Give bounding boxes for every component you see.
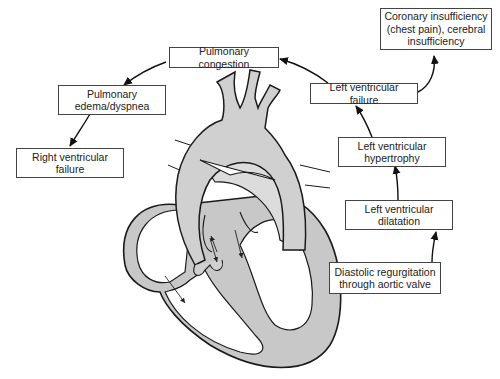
arrow-edema-to-rv-failure bbox=[70, 114, 90, 146]
heart-shape bbox=[124, 195, 341, 368]
arrow-hypertrophy-to-failure bbox=[356, 106, 372, 137]
node-pulmonary-congestion: Pulmonary congestion bbox=[169, 47, 279, 68]
node-right-ventricular-failure: Right ventricular failure bbox=[16, 148, 124, 178]
node-left-ventricular-hypertrophy: Left ventricular hypertrophy bbox=[338, 137, 446, 167]
arrow-failure-to-congestion bbox=[280, 59, 328, 83]
node-left-ventricular-dilatation: Left ventricular dilatation bbox=[345, 200, 453, 230]
diagram-canvas: Coronary insufficiency (chest pain), cer… bbox=[0, 0, 500, 379]
node-pulmonary-edema: Pulmonary edema/dyspnea bbox=[58, 85, 166, 115]
node-diastolic-regurgitation: Diastolic regurgitation through aortic v… bbox=[329, 262, 441, 294]
arrow-regurgitation-to-dilatation bbox=[432, 232, 436, 262]
arrow-failure-to-coronary bbox=[418, 56, 434, 92]
arrow-dilatation-to-hypertrophy bbox=[395, 166, 398, 200]
node-coronary-insufficiency: Coronary insufficiency (chest pain), cer… bbox=[380, 8, 492, 50]
arrow-congestion-to-edema bbox=[124, 62, 166, 85]
node-left-ventricular-failure: Left ventricular failure bbox=[310, 83, 418, 104]
